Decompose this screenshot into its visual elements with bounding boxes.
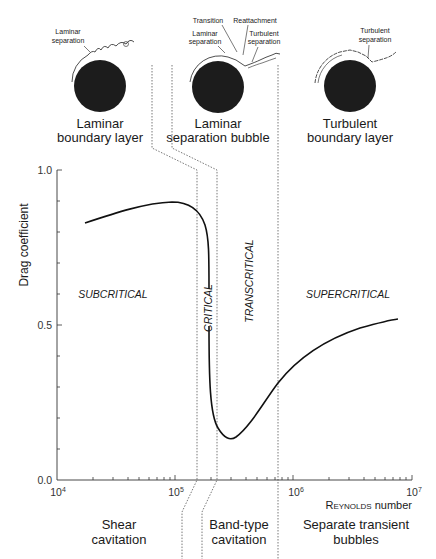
region-supercritical: SUPERCRITICAL	[306, 288, 390, 300]
diagram-title-line2: separation bubble	[166, 130, 269, 145]
drag-coefficient-figure: Laminar separation Laminar boundary laye…	[0, 0, 436, 559]
annotation-laminar-separation-1: Laminar	[192, 30, 218, 37]
x-axis-label: Reynolds number	[325, 499, 412, 511]
annotation-laminar: Laminar	[55, 28, 81, 35]
annotation-turbulent-separation-2: separation	[248, 38, 281, 46]
x-axis: 104 105 106 107 Reynolds number	[50, 475, 422, 511]
cylinder-icon	[192, 61, 244, 113]
cavitation-band-2: cavitation	[212, 532, 267, 547]
annotation-laminar-separation-2: separation	[189, 38, 222, 46]
cylinder-icon	[74, 60, 126, 112]
diagram-title-line2: boundary layer	[57, 130, 144, 145]
cavitation-transient-2: bubbles	[333, 532, 379, 547]
x-tick-10e6: 106	[288, 486, 304, 498]
cylinder-icon	[324, 60, 376, 112]
diagram-laminar-boundary-layer: Laminar separation Laminar boundary laye…	[52, 28, 144, 145]
x-tick-10e5: 105	[168, 486, 184, 498]
cavitation-transient-1: Separate transient	[303, 517, 410, 532]
diagram-title-line1: Laminar	[77, 116, 125, 131]
drag-curve	[85, 202, 398, 439]
cavitation-shear-2: cavitation	[92, 532, 147, 547]
annotation-separation: separation	[359, 36, 392, 44]
y-tick-0.0: 0.0	[37, 474, 52, 486]
y-axis-label: Drag coefficient	[17, 203, 31, 287]
x-tick-10e4: 104	[50, 486, 66, 498]
annotation-transition: Transition	[193, 17, 224, 24]
diagram-laminar-separation-bubble: Transition Reattachment Laminar separati…	[166, 17, 280, 145]
diagram-title-line2: boundary layer	[307, 130, 394, 145]
y-tick-0.5: 0.5	[37, 319, 52, 331]
diagram-turbulent-boundary-layer: Turbulent separation Turbulent boundary …	[307, 27, 396, 145]
annotation-turbulent: Turbulent	[360, 27, 389, 34]
y-tick-1.0: 1.0	[37, 164, 52, 176]
annotation-reattachment: Reattachment	[233, 17, 277, 24]
diagram-title-line1: Turbulent	[323, 116, 378, 131]
annotation-separation: separation	[52, 37, 85, 45]
region-subcritical: SUBCRITICAL	[78, 288, 148, 300]
annotation-turbulent-separation-1: Turbulent	[249, 30, 278, 37]
region-critical: CRITICAL	[202, 284, 214, 332]
y-axis: 1.0 0.5 0.0 Drag coefficient	[17, 164, 62, 486]
x-tick-10e7: 107	[406, 486, 422, 498]
cavitation-shear-1: Shear	[102, 517, 137, 532]
region-transcritical: TRANSCRITICAL	[243, 239, 255, 323]
cavitation-band-1: Band-type	[209, 517, 268, 532]
diagram-title-line1: Laminar	[195, 116, 243, 131]
